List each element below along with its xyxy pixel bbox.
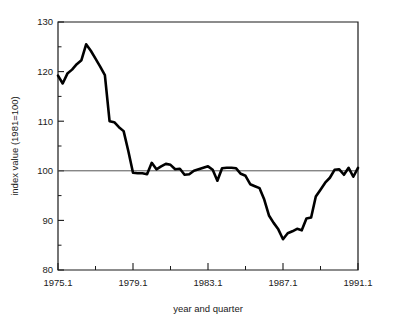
series-line: [58, 44, 358, 239]
x-tick-label: 1975.1: [43, 277, 72, 288]
y-tick-label: 120: [37, 66, 53, 77]
x-tick-label: 1979.1: [118, 277, 147, 288]
y-tick-label: 110: [38, 116, 53, 127]
plot-frame: [58, 22, 358, 270]
x-tick-label: 1983.1: [193, 277, 222, 288]
y-axis-ticks: [58, 22, 64, 270]
data-series: [58, 44, 358, 239]
x-axis-title: year and quarter: [173, 303, 243, 314]
x-tick-label: 1987.1: [268, 277, 297, 288]
x-axis-ticks: [58, 263, 358, 270]
y-tick-label: 90: [42, 215, 53, 226]
y-tick-label: 80: [42, 264, 53, 275]
x-axis-tick-labels: 1975.11979.11983.11987.11991.1: [43, 277, 372, 288]
y-axis-tick-labels: 8090100110120130: [37, 16, 53, 275]
y-tick-label: 100: [37, 165, 53, 176]
line-chart: 8090100110120130 1975.11979.11983.11987.…: [0, 0, 395, 324]
chart-figure: 8090100110120130 1975.11979.11983.11987.…: [0, 0, 395, 324]
x-tick-label: 1991.1: [343, 277, 372, 288]
y-tick-label: 130: [37, 16, 53, 27]
y-axis-title: index value (1981=100): [9, 96, 20, 196]
